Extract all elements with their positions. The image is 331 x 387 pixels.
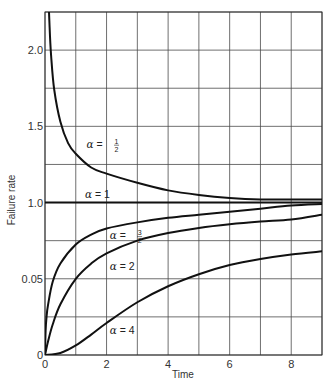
series-label-alpha-3-2: α = 32 bbox=[110, 229, 143, 244]
series-label-text: α = bbox=[87, 138, 103, 150]
y-axis-label: Failure rate bbox=[6, 174, 17, 225]
series-line-alpha-1-2 bbox=[46, 0, 322, 200]
fraction-denominator: 2 bbox=[138, 237, 142, 244]
y-tick-label: 1.0 bbox=[28, 197, 43, 209]
y-tick-label: 0.05 bbox=[22, 273, 43, 285]
series-label-text: α = bbox=[110, 229, 126, 241]
series-label-alpha-4: α = 4 bbox=[110, 324, 135, 336]
x-tick-label: 4 bbox=[165, 358, 171, 370]
fraction-denominator: 2 bbox=[115, 146, 119, 153]
series-line-alpha-2 bbox=[45, 215, 322, 355]
failure-rate-chart: α = 12α = 1α = 32α = 2α = 4 02468 00.051… bbox=[0, 0, 331, 387]
x-tick-label: 6 bbox=[227, 358, 233, 370]
fraction-numerator: 3 bbox=[138, 229, 142, 236]
series-label-text: α = 2 bbox=[110, 260, 135, 272]
y-tick-label: 0 bbox=[37, 349, 43, 361]
grid bbox=[45, 12, 322, 355]
series-label-alpha-2: α = 2 bbox=[110, 260, 135, 272]
series-label-alpha-1: α = 1 bbox=[85, 188, 110, 200]
y-tick-labels: 00.051.01.52.0 bbox=[22, 44, 43, 361]
x-axis-label: Time bbox=[172, 369, 194, 380]
x-tick-label: 8 bbox=[288, 358, 294, 370]
plot-frame bbox=[45, 12, 322, 355]
series-lines bbox=[45, 0, 322, 355]
series-label-alpha-1-2: α = 12 bbox=[87, 138, 120, 153]
x-tick-labels: 02468 bbox=[42, 358, 294, 370]
fraction-numerator: 1 bbox=[115, 138, 119, 145]
series-label-text: α = 4 bbox=[110, 324, 135, 336]
y-tick-label: 2.0 bbox=[28, 44, 43, 56]
y-tick-label: 1.5 bbox=[28, 120, 43, 132]
series-labels: α = 12α = 1α = 32α = 2α = 4 bbox=[85, 138, 142, 336]
series-label-text: α = 1 bbox=[85, 188, 110, 200]
x-tick-label: 2 bbox=[103, 358, 109, 370]
